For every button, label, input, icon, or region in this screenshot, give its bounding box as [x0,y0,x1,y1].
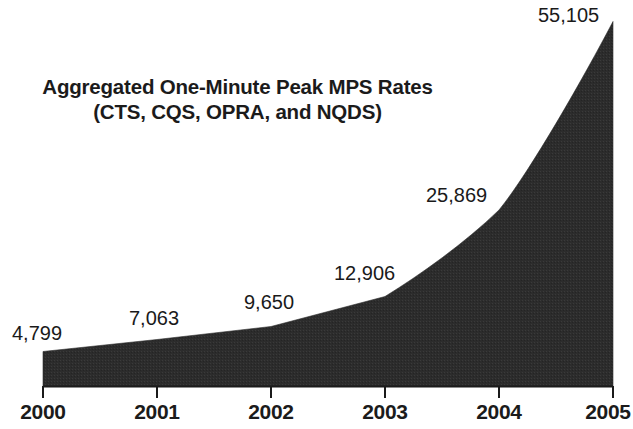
data-label-2000: 4,799 [12,322,62,345]
x-tick-label-2003: 2003 [362,400,408,424]
data-label-2005: 55,105 [538,4,599,27]
data-label-2001: 7,063 [129,307,179,330]
data-label-2004: 25,869 [426,184,487,207]
chart-title-line-1: Aggregated One-Minute Peak MPS Rates [40,74,435,99]
chart-title-line-2: (CTS, CQS, OPRA, and NQDS) [40,99,435,124]
x-tick-label-2004: 2004 [476,400,522,424]
area-chart-graphic [0,0,633,429]
data-label-2002: 9,650 [244,291,294,314]
chart-title: Aggregated One-Minute Peak MPS Rates (CT… [40,74,435,124]
x-axis-ticks [43,386,613,398]
x-tick-label-2001: 2001 [134,400,180,424]
data-label-2003: 12,906 [334,262,395,285]
x-tick-label-2002: 2002 [248,400,294,424]
x-tick-label-2005: 2005 [585,400,631,424]
x-tick-label-2000: 2000 [20,400,66,424]
chart-figure: Aggregated One-Minute Peak MPS Rates (CT… [0,0,633,429]
